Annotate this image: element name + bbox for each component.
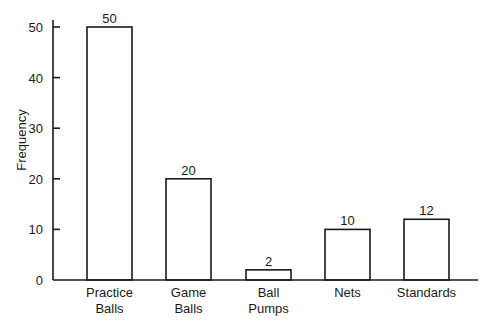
bars: 50PracticeBalls20GameBalls2BallPumps10Ne… xyxy=(86,11,457,316)
x-category-label: Ball xyxy=(258,285,280,300)
bar-ball-pumps: 2BallPumps xyxy=(246,254,291,316)
bar-rect xyxy=(404,219,449,280)
bar-value-label: 2 xyxy=(265,254,272,269)
bar-game-balls: 20GameBalls xyxy=(166,163,211,316)
y-tick-label: 50 xyxy=(29,20,43,35)
bar-rect xyxy=(325,229,370,280)
y-tick-label: 30 xyxy=(29,121,43,136)
x-category-label: Standards xyxy=(397,285,457,300)
x-category-label: Balls xyxy=(174,301,203,316)
y-tick-label: 10 xyxy=(29,222,43,237)
bar-nets: 10Nets xyxy=(325,213,370,300)
bar-chart: 01020304050 50PracticeBalls20GameBalls2B… xyxy=(0,0,491,321)
y-axis: 01020304050 xyxy=(29,20,60,288)
bar-practice-balls: 50PracticeBalls xyxy=(86,11,133,316)
y-tick-label: 20 xyxy=(29,172,43,187)
bar-rect xyxy=(246,270,291,280)
bar-value-label: 10 xyxy=(340,213,354,228)
y-axis-title: Frequency xyxy=(14,109,29,171)
x-category-label: Balls xyxy=(95,301,124,316)
y-tick-label: 40 xyxy=(29,71,43,86)
x-category-label: Pumps xyxy=(248,301,289,316)
x-category-label: Practice xyxy=(86,285,133,300)
bar-value-label: 20 xyxy=(181,163,195,178)
y-tick-label: 0 xyxy=(36,273,43,288)
bar-value-label: 50 xyxy=(102,11,116,26)
bar-rect xyxy=(87,27,132,280)
bar-standards: 12Standards xyxy=(397,203,457,300)
bar-rect xyxy=(166,179,211,280)
x-category-label: Game xyxy=(171,285,206,300)
x-category-label: Nets xyxy=(334,285,361,300)
bar-value-label: 12 xyxy=(419,203,433,218)
